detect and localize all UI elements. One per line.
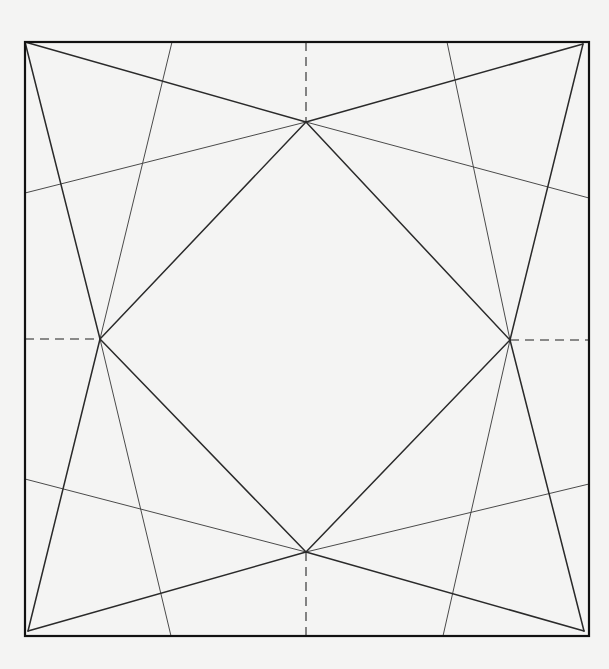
corner-crease-line-4 (510, 44, 583, 340)
inner-square-edge-1 (306, 340, 510, 552)
inner-square-creases (100, 122, 510, 552)
corner-creases (25, 42, 584, 631)
inner-square-edge-2 (100, 339, 306, 552)
thin-crease-line-4 (100, 42, 172, 339)
crease-pattern-diagram (0, 0, 609, 669)
corner-crease-line-5 (510, 340, 584, 631)
corner-crease-line-3 (28, 339, 100, 631)
paper-square-border (25, 42, 589, 636)
thin-crease-line-0 (25, 122, 306, 193)
corner-crease-line-0 (25, 42, 306, 122)
inner-square-edge-0 (306, 122, 510, 340)
thin-creases (25, 42, 589, 636)
thin-crease-line-2 (25, 479, 306, 552)
inner-square-edge-3 (100, 122, 306, 339)
corner-crease-line-1 (306, 44, 583, 122)
thin-crease-line-6 (447, 42, 510, 340)
corner-crease-line-7 (306, 552, 584, 631)
dashed-creases (25, 42, 589, 636)
thin-crease-line-1 (306, 122, 589, 198)
thin-crease-line-3 (306, 484, 589, 552)
thin-crease-line-5 (100, 339, 171, 636)
thin-crease-line-7 (443, 340, 510, 636)
